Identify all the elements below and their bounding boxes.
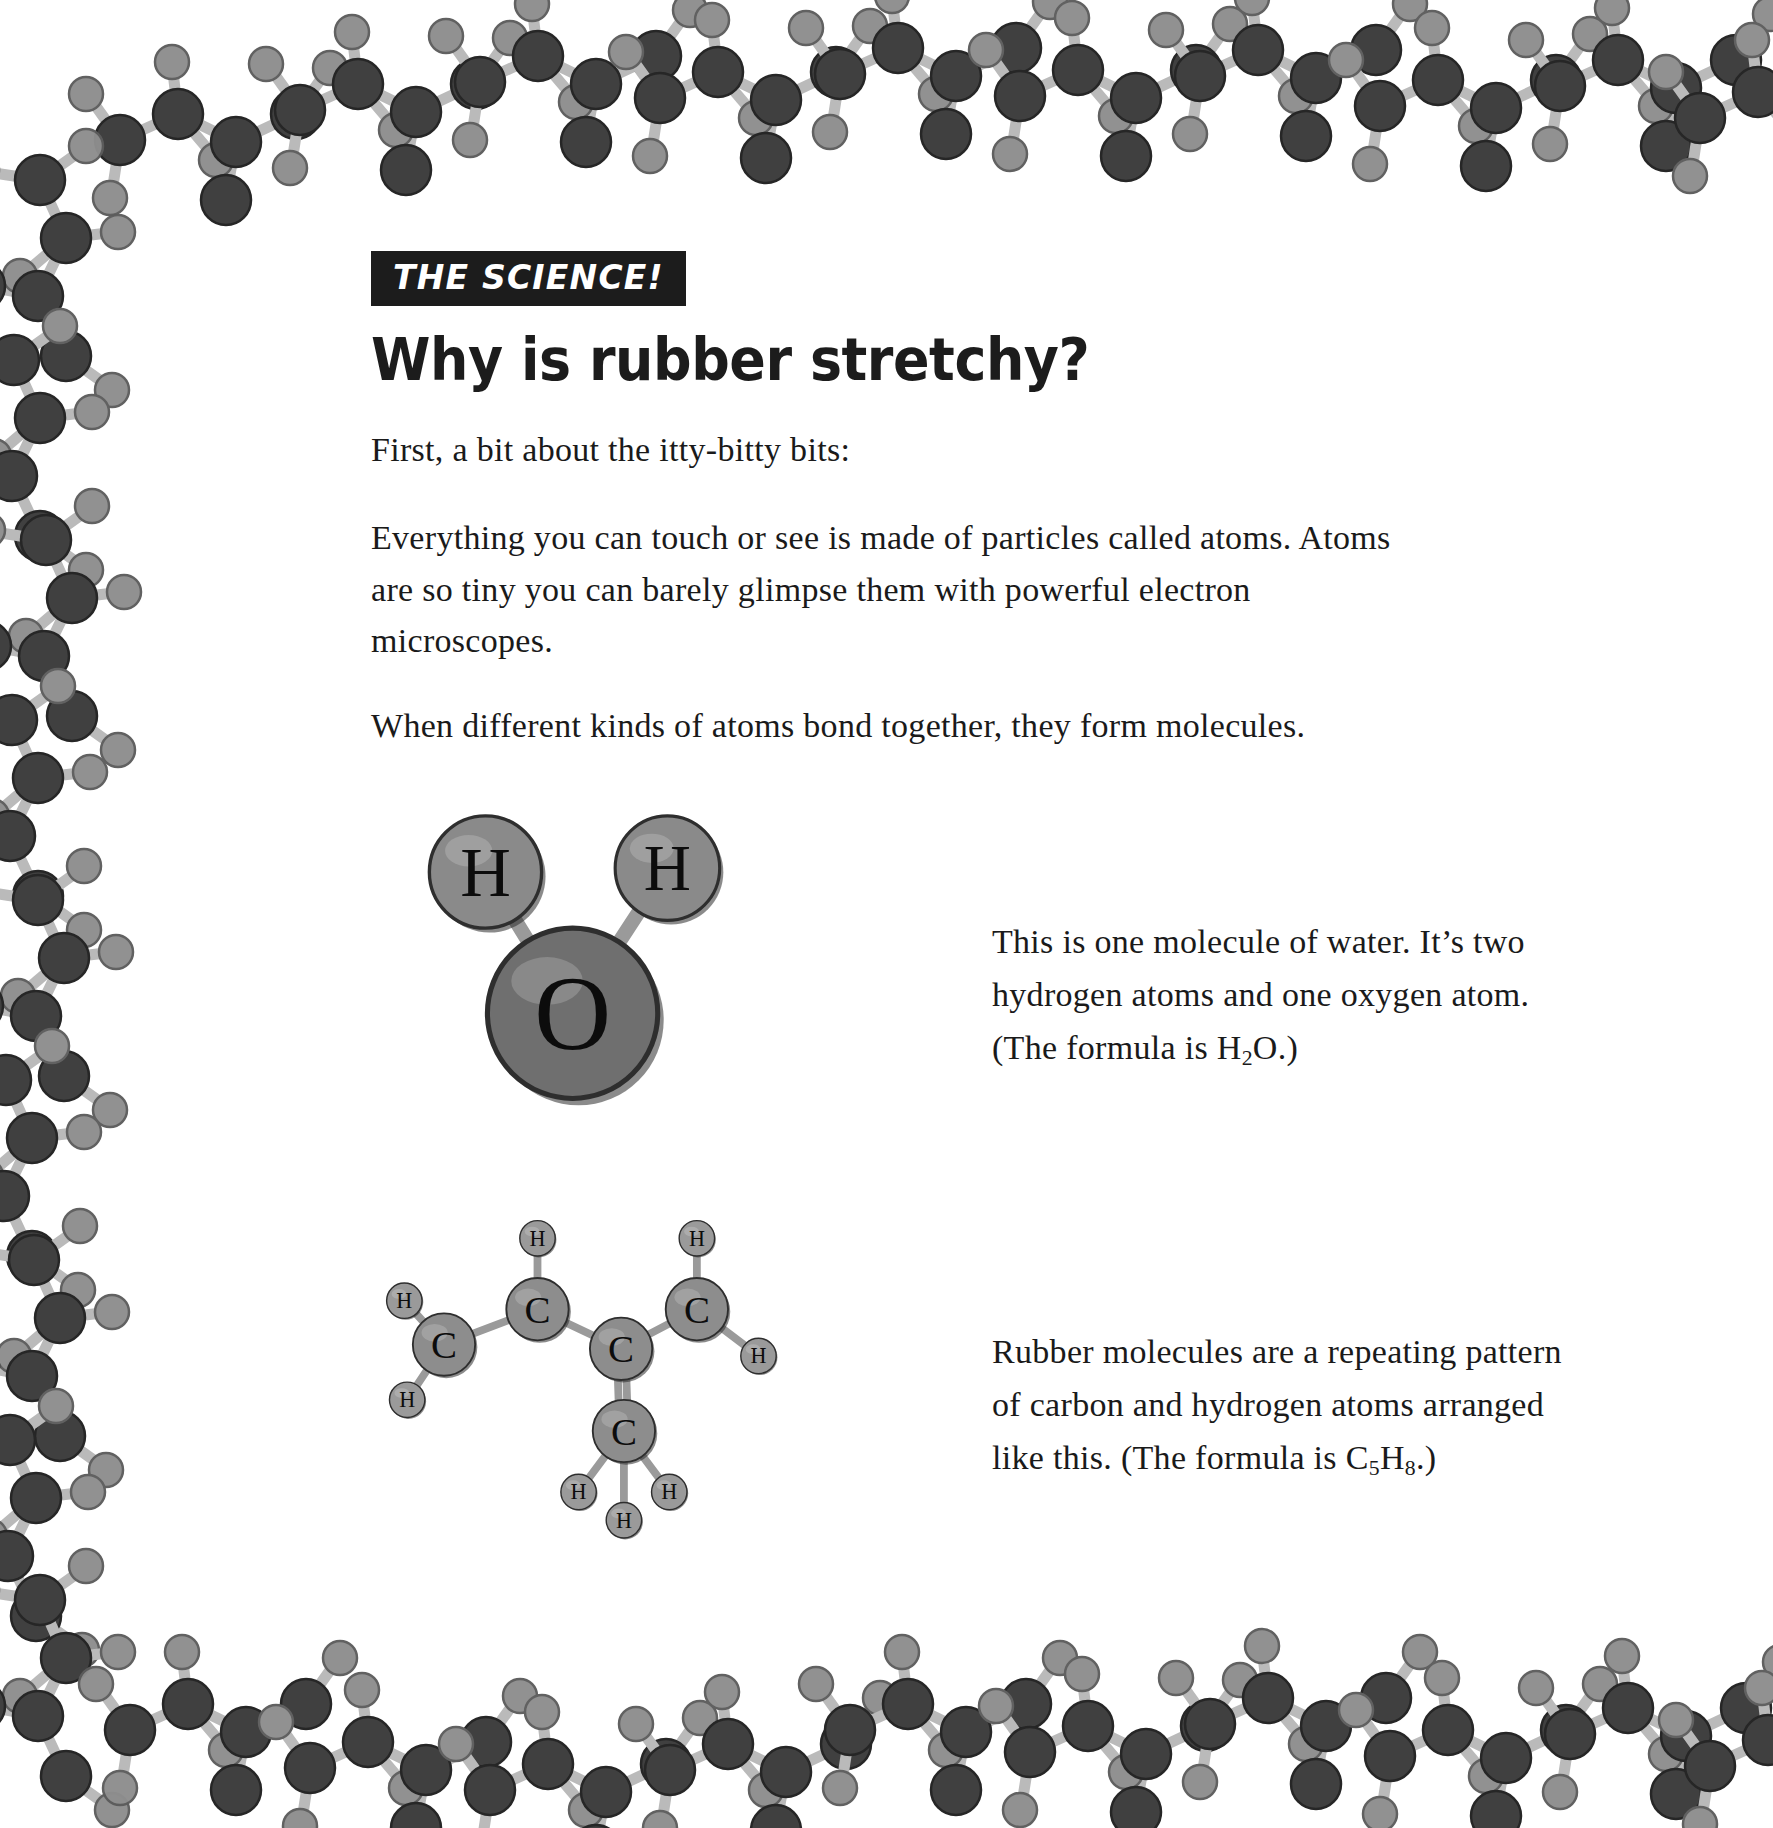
atom-label: C (431, 1323, 457, 1366)
atom-hydrogen: H (389, 1382, 426, 1419)
atom-hydrogen: H (652, 1474, 689, 1511)
rubber-formula-mid: H (1380, 1439, 1405, 1476)
atom-label: H (661, 1479, 677, 1504)
caption-rubber-line2: of carbon and hydrogen atoms arranged (992, 1386, 1544, 1423)
rubber-formula-sub1: 5 (1369, 1456, 1380, 1480)
atom-hydrogen: H (387, 1283, 424, 1320)
atom-label: C (525, 1288, 551, 1331)
atom-label: H (571, 1479, 587, 1504)
caption-rubber-line1: Rubber molecules are a repeating pattern (992, 1333, 1562, 1370)
atom-label: H (396, 1288, 412, 1313)
atom-label: C (608, 1327, 634, 1370)
rubber-formula-sub2: 8 (1405, 1456, 1416, 1480)
atom-label: H (530, 1226, 546, 1251)
water-molecule-diagram: HHO (420, 812, 760, 1112)
caption-rubber: Rubber molecules are a repeating pattern… (992, 1325, 1712, 1486)
atom-label: H (644, 832, 691, 904)
atom-hydrogen: H (429, 816, 545, 933)
water-formula-post: O.) (1253, 1029, 1298, 1066)
section-kicker-badge: THE SCIENCE! (371, 251, 686, 306)
caption-water-line1: This is one molecule of water. It’s two (992, 923, 1525, 960)
rubber-molecule-diagram: CCCCCHHHHHHHH (370, 1210, 790, 1550)
rubber-formula-post: .) (1416, 1439, 1436, 1476)
atom-hydrogen: H (679, 1221, 716, 1258)
water-formula-pre: (The formula is H (992, 1029, 1242, 1066)
atom-hydrogen: H (615, 816, 723, 925)
atom-carbon: C (413, 1313, 478, 1378)
caption-water-line3: (The formula is H2O.) (992, 1029, 1298, 1066)
atom-label: H (399, 1387, 415, 1412)
rubber-formula-pre: like this. (The formula is C (992, 1439, 1369, 1476)
rubber-atom-group: CCCCCHHHHHHHH (387, 1221, 778, 1540)
paragraph-intro: First, a bit about the itty-bitty bits: (371, 424, 1271, 476)
atom-hydrogen: H (741, 1338, 778, 1375)
paragraph-atoms: Everything you can touch or see is made … (371, 512, 1401, 667)
atom-label: H (460, 833, 511, 911)
atom-label: H (689, 1226, 705, 1251)
atom-label: H (751, 1343, 767, 1368)
atom-hydrogen: H (606, 1503, 643, 1540)
atom-label: C (611, 1410, 637, 1453)
atom-label: O (534, 954, 611, 1072)
atom-label: H (616, 1508, 632, 1533)
atom-carbon: C (666, 1278, 731, 1343)
page-title: Why is rubber stretchy? (371, 326, 1089, 394)
caption-rubber-line3: like this. (The formula is C5H8.) (992, 1439, 1436, 1476)
atom-carbon: C (506, 1278, 571, 1343)
water-formula-sub: 2 (1242, 1046, 1253, 1070)
atom-hydrogen: H (561, 1474, 598, 1511)
atom-carbon: C (590, 1318, 655, 1383)
caption-water: This is one molecule of water. It’s two … (992, 915, 1712, 1076)
caption-water-line2: hydrogen atoms and one oxygen atom. (992, 976, 1529, 1013)
paragraph-molecules: When different kinds of atoms bond toget… (371, 700, 1401, 752)
atom-label: C (684, 1288, 710, 1331)
atom-hydrogen: H (520, 1221, 557, 1258)
atom-oxygen: O (487, 928, 663, 1105)
water-atom-group: HHO (429, 816, 723, 1105)
